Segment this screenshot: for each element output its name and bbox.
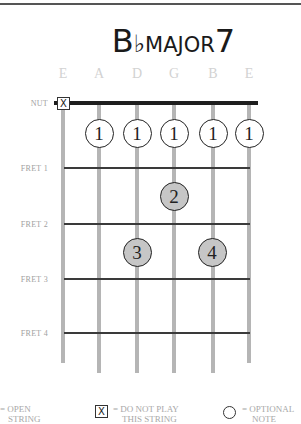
chord-root: B bbox=[112, 22, 134, 60]
finger-dot-3: 3 bbox=[123, 238, 152, 267]
top-border bbox=[0, 3, 301, 5]
fret-4-label: FRET 4 bbox=[0, 329, 48, 338]
string-label-b: B bbox=[203, 66, 223, 82]
chord-title: B♭MAJOR7 bbox=[0, 22, 301, 60]
finger-dot-a: 1 bbox=[85, 119, 114, 148]
string-label-a: A bbox=[89, 66, 109, 82]
chord-extension: 7 bbox=[215, 22, 235, 60]
finger-dot-e-high: 1 bbox=[235, 119, 264, 148]
string-label-g: G bbox=[164, 66, 184, 82]
legend-optional-line1: = OPTIONAL bbox=[242, 404, 294, 414]
fret-4-line bbox=[64, 332, 250, 334]
fret-3-label: FRET 3 bbox=[0, 275, 48, 284]
fret-1-label: FRET 1 bbox=[0, 164, 48, 173]
flat-symbol: ♭ bbox=[134, 30, 145, 58]
legend-mute-line2: THIS STRING bbox=[113, 414, 179, 424]
string-e-low bbox=[61, 110, 65, 363]
finger-dot-g: 1 bbox=[160, 119, 189, 148]
legend-optional-note: = OPTIONAL NOTE bbox=[242, 404, 294, 424]
finger-dot-d: 1 bbox=[123, 119, 152, 148]
legend-mute-line1: = DO NOT PLAY bbox=[113, 404, 179, 414]
finger-dot-4: 4 bbox=[198, 238, 227, 267]
string-label-d: D bbox=[127, 66, 147, 82]
legend-open-line2: STRING bbox=[0, 414, 41, 424]
legend-do-not-play: = DO NOT PLAY THIS STRING bbox=[113, 404, 179, 424]
fret-2-line bbox=[64, 223, 250, 225]
string-label-e-high: E bbox=[239, 66, 259, 82]
legend-optional-line2: NOTE bbox=[242, 414, 294, 424]
fret-2-label: FRET 2 bbox=[0, 220, 48, 229]
legend-mute-x-icon: X bbox=[95, 405, 108, 418]
legend-optional-circle-icon bbox=[223, 406, 236, 419]
fret-1-line bbox=[64, 167, 250, 169]
string-label-e-low: E bbox=[53, 66, 73, 82]
nut-label: NUT bbox=[0, 99, 48, 108]
legend-open-line1: = OPEN bbox=[0, 404, 41, 414]
nut-line bbox=[54, 101, 258, 105]
chord-quality: MAJOR bbox=[145, 33, 215, 57]
legend-open-string: = OPEN STRING bbox=[0, 404, 41, 424]
finger-dot-b: 1 bbox=[199, 119, 228, 148]
fret-3-line bbox=[64, 278, 250, 280]
finger-dot-2: 2 bbox=[160, 182, 189, 211]
mute-x-icon: X bbox=[57, 97, 70, 110]
